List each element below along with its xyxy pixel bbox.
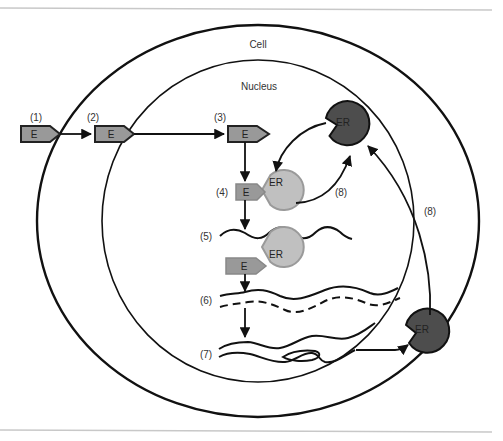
step-label-6: (6) bbox=[200, 295, 212, 306]
step-label-4: (4) bbox=[216, 187, 228, 198]
step-label-3: (3) bbox=[214, 112, 226, 123]
ligand-label: E bbox=[243, 187, 250, 198]
bound-complex-step-4: E ER bbox=[236, 170, 304, 210]
nuclear-membrane bbox=[102, 60, 414, 382]
free-receptor-bottom: ER bbox=[406, 309, 449, 353]
ligand-label: E bbox=[242, 129, 249, 140]
step-label-1: (1) bbox=[30, 112, 42, 123]
rna-strand-step-7a bbox=[219, 323, 375, 349]
receptor-label: ER bbox=[415, 324, 429, 335]
arrow-receptor-to-complex bbox=[276, 123, 326, 171]
step-label-2: (2) bbox=[87, 112, 99, 123]
nucleus-label: Nucleus bbox=[241, 81, 277, 92]
step-label-8b: (8) bbox=[424, 206, 436, 217]
step-label-7: (7) bbox=[200, 349, 212, 360]
ligand-label: E bbox=[241, 261, 248, 272]
estrogen-receptor-diagram: Cell Nucleus E (1) E (2) E (3) E ER (4) … bbox=[0, 0, 503, 441]
bottom-rule bbox=[0, 430, 492, 432]
cell-label: Cell bbox=[249, 39, 266, 50]
ligand-label: E bbox=[108, 129, 115, 140]
rna-strand-step-7b bbox=[219, 350, 355, 362]
receptor-label: ER bbox=[336, 117, 350, 128]
dna-strand-step-6 bbox=[220, 286, 398, 298]
ligand-step-3: E bbox=[228, 126, 269, 142]
dna-strand-dashed-step-6 bbox=[220, 297, 400, 312]
step-label-5: (5) bbox=[200, 231, 212, 242]
ligand-label: E bbox=[31, 129, 38, 140]
bound-complex-on-dna: E ER bbox=[226, 227, 304, 274]
receptor-label: ER bbox=[269, 249, 283, 260]
ligand-step-1: E bbox=[21, 126, 60, 142]
top-rule bbox=[0, 8, 492, 10]
receptor-label: ER bbox=[269, 177, 283, 188]
ligand-step-2: E bbox=[95, 126, 134, 142]
free-receptor-top: ER bbox=[326, 101, 369, 145]
arrow-7-to-receptor bbox=[356, 345, 408, 350]
step-label-8a: (8) bbox=[335, 187, 347, 198]
